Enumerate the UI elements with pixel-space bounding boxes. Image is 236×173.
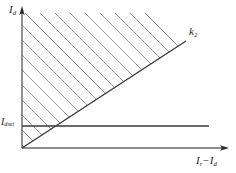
y-axis-label-subscript: d — [13, 9, 16, 16]
threshold-line-label: Idset — [1, 117, 14, 128]
y-axis-label: Id — [9, 4, 16, 16]
slope-line-label: k2 — [189, 26, 197, 38]
x-axis-line — [22, 145, 229, 150]
x-axis-label-suffix-subscript: d — [213, 160, 216, 167]
figure-canvas: Id Ir−Id Idset k2 — [0, 0, 236, 173]
plot-svg — [0, 0, 236, 173]
hatch-lines — [0, 13, 236, 163]
threshold-label-subscript: dset — [4, 120, 14, 127]
x-axis-label-suffix: −I — [202, 154, 213, 166]
slope-label-subscript: 2 — [194, 31, 197, 38]
x-axis-label: Ir−Id — [196, 155, 217, 167]
